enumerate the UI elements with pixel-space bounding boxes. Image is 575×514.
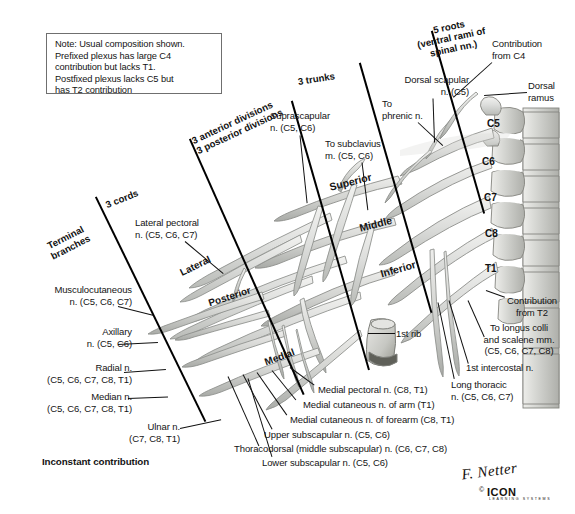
label-medial-pectoral: Medial pectoral n. (C8, T1) [318, 384, 428, 396]
label-first-rib: 1st rib [396, 328, 421, 340]
label-thoracodorsal: Thoracodorsal (middle subscapular) n. (C… [234, 443, 447, 455]
label-to-subclavius: To subclavius m. (C5, C6) [325, 138, 381, 161]
label-musculocutaneous: Musculocutaneous n. (C5, C6, C7) [16, 284, 132, 307]
brachial-plexus-figure: Note: Usual composition shown. Prefixed … [0, 0, 575, 514]
label-median: Median n. (C5, C6, C7, C8, T1) [6, 391, 132, 414]
vertebra-t1: T1 [485, 263, 497, 274]
first-rib [367, 319, 398, 366]
note-line-2: Prefixed plexus has large C4 [55, 51, 214, 63]
label-radial: Radial n. (C5, C6, C7, C8, T1) [6, 362, 132, 385]
label-contribution-from-t2: Contribution from T2 [507, 295, 557, 318]
label-dorsal-ramus: Dorsal ramus [528, 80, 555, 103]
vertebra-c8: C8 [485, 228, 498, 239]
label-lower-subscapular: Lower subscapular n. (C5, C6) [262, 457, 388, 469]
vertebra-c5: C5 [487, 118, 500, 129]
label-ulnar: Ulnar n. (C7, C8, T1) [80, 421, 180, 444]
vertebra-c6: C6 [482, 156, 495, 167]
label-long-thoracic: Long thoracic n. (C5, C6, C7) [451, 379, 513, 402]
note-line-3: contribution but lacks T1. [55, 62, 214, 74]
vertebra-c7: C7 [484, 192, 497, 203]
label-to-longus-colli: To longus colli and scalene mm. (C5, C6,… [473, 322, 565, 357]
label-dorsal-scapular: Dorsal scapular n. (C5) [383, 74, 469, 97]
note-line-4: Postfixed plexus lacks C5 but [55, 74, 214, 86]
note-box: Note: Usual composition shown. Prefixed … [46, 33, 222, 94]
copyright-symbol: © [479, 486, 484, 493]
label-lateral-pectoral: Lateral pectoral n. (C5, C6, C7) [135, 217, 199, 240]
label-first-intercostal: 1st intercostal n. [466, 362, 533, 374]
label-inconstant-contribution: Inconstant contribution [42, 456, 149, 468]
label-medial-cutaneous-forearm: Medial cutaneous n. of forearm (C8, T1) [290, 414, 454, 426]
note-line-1: Note: Usual composition shown. [55, 39, 214, 51]
icon-learning-systems-subtitle: LEARNING SYSTEMS [489, 497, 551, 501]
note-line-5: has T2 contribution [55, 85, 214, 97]
label-to-phrenic: To phrenic n. [382, 98, 423, 121]
label-upper-subscapular: Upper subscapular n. (C5, C6) [264, 429, 390, 441]
label-contribution-from-c4: Contribution from C4 [492, 38, 542, 61]
label-medial-cutaneous-arm: Medial cutaneous n. of arm (T1) [303, 399, 435, 411]
leader-first-rib [368, 333, 395, 334]
label-axillary: Axillary n. (C5, C6) [16, 326, 132, 349]
label-suprascapular: Suprascapular n. (C5, C6) [270, 110, 330, 133]
